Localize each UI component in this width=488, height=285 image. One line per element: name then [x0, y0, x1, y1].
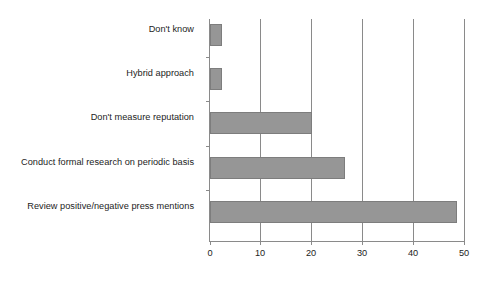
y-axis-tick-4	[206, 190, 210, 191]
bar-dont-measure	[210, 112, 312, 134]
x-axis-tick-20	[311, 241, 312, 245]
bar-dont-know	[210, 24, 222, 46]
plot-area: 0 10 20 30 40 50	[210, 19, 465, 241]
x-axis-label-40: 40	[398, 248, 428, 259]
x-axis-label-20: 20	[296, 248, 326, 259]
x-axis-tick-40	[413, 241, 414, 245]
category-label-dont-know: Don't know	[0, 24, 194, 35]
x-axis-tick-10	[260, 241, 261, 245]
y-axis-tick-1	[206, 57, 210, 58]
x-axis-line	[209, 241, 465, 242]
x-axis-tick-0	[210, 241, 211, 245]
y-axis-tick-3	[206, 146, 210, 147]
x-axis-label-10: 10	[245, 248, 275, 259]
category-axis-labels: Don't know Hybrid approach Don't measure…	[0, 19, 202, 241]
bar-hybrid-approach	[210, 68, 222, 90]
category-label-conduct-research: Conduct formal research on periodic basi…	[0, 157, 194, 168]
x-axis-label-0: 0	[195, 248, 225, 259]
category-label-hybrid-approach: Hybrid approach	[0, 68, 194, 79]
x-axis-tick-50	[464, 241, 465, 245]
bar-review-press	[210, 201, 457, 223]
category-label-dont-measure: Don't measure reputation	[0, 112, 194, 123]
category-label-review-press: Review positive/negative press mentions	[0, 201, 194, 212]
y-axis-tick-2	[206, 101, 210, 102]
x-axis-label-30: 30	[347, 248, 377, 259]
x-axis-label-50: 50	[449, 248, 479, 259]
bar-chart: Don't know Hybrid approach Don't measure…	[0, 0, 488, 285]
gridline-50	[464, 19, 465, 241]
x-axis-tick-30	[362, 241, 363, 245]
bar-conduct-research	[210, 157, 345, 179]
